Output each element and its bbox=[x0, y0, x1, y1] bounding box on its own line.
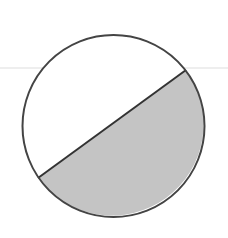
circle-diagram bbox=[0, 0, 228, 238]
diagram-canvas bbox=[0, 0, 228, 238]
